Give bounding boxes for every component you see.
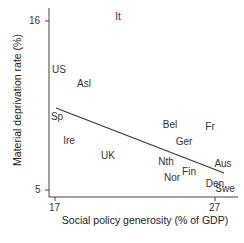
y-axis-label: Material deprivation rate (%) bbox=[11, 20, 25, 180]
y-tick-label-16: 16 bbox=[29, 15, 40, 26]
point-label-ire: Ire bbox=[63, 135, 75, 146]
point-label-it: It bbox=[115, 11, 121, 22]
point-label-sp: Sp bbox=[51, 111, 63, 122]
point-label-fr: Fr bbox=[205, 121, 214, 132]
regression-line bbox=[56, 108, 224, 173]
y-tick-label-5: 5 bbox=[35, 184, 41, 195]
point-label-nor: Nor bbox=[164, 172, 180, 183]
point-label-uk: UK bbox=[101, 150, 115, 161]
x-tick-label-17: 17 bbox=[49, 202, 60, 213]
point-label-bel: Bel bbox=[163, 119, 177, 130]
x-tick-label-27: 27 bbox=[209, 202, 220, 213]
scatter-chart: Material deprivation rate (%) Social pol… bbox=[0, 0, 244, 243]
x-axis-label: Social policy generosity (% of GDP) bbox=[55, 214, 235, 226]
point-label-fin: Fin bbox=[182, 166, 196, 177]
point-label-aus: Aus bbox=[214, 158, 231, 169]
point-label-asl: Asl bbox=[77, 78, 91, 89]
point-label-ger: Ger bbox=[176, 136, 193, 147]
point-label-swe: Swe bbox=[215, 183, 234, 194]
point-label-nth: Nth bbox=[158, 156, 174, 167]
point-label-us: US bbox=[52, 64, 66, 75]
